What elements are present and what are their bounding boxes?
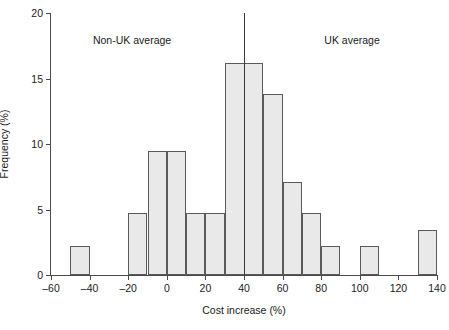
y-tick-label: 5 [37,204,43,215]
x-tick-label: 60 [277,283,289,294]
y-axis-title: Frequency (%) [0,110,9,179]
histogram-bar [186,213,205,275]
x-tick-label: 40 [238,283,250,294]
y-tick-label: 15 [31,73,43,84]
x-tick-label: –40 [81,283,99,294]
histogram-bar [360,246,379,275]
x-tick-label: 100 [351,283,369,294]
histogram-bar [283,182,302,275]
uk-average-divider [244,13,245,275]
histogram-bar [205,213,224,275]
x-tick-label: 120 [390,283,408,294]
uk-average-label: UK average [324,35,379,46]
x-tick-mark [90,275,91,280]
y-tick-mark [46,144,51,145]
histogram-bar [263,94,282,275]
histogram-bar [321,246,340,275]
y-tick-label: 0 [37,270,43,281]
non-uk-average-label: Non-UK average [93,35,171,46]
x-tick-mark [205,275,206,280]
x-tick-label: 80 [315,283,327,294]
y-tick-mark [46,79,51,80]
histogram-bar [70,246,89,275]
histogram-bar [418,230,437,275]
x-tick-mark [283,275,284,280]
x-tick-mark [51,275,52,280]
histogram-bar [167,151,186,275]
x-axis-title: Cost increase (%) [51,305,437,316]
histogram-bar [148,151,167,275]
x-tick-label: –60 [42,283,60,294]
x-tick-mark [398,275,399,280]
y-tick-label: 20 [31,8,43,19]
histogram-bar [128,213,147,275]
histogram-bar [302,213,321,275]
x-tick-label: 140 [428,283,446,294]
x-tick-label: –20 [119,283,137,294]
histogram-figure: 05101520 –60–40–20020406080100120140 Non… [0,0,449,330]
x-tick-label: 20 [200,283,212,294]
x-tick-mark [128,275,129,280]
x-tick-mark [167,275,168,280]
plot-area: 05101520 –60–40–20020406080100120140 Non… [51,13,437,275]
x-tick-mark [321,275,322,280]
y-tick-mark [46,13,51,14]
x-tick-mark [437,275,438,280]
y-tick-mark [46,210,51,211]
x-tick-label: 0 [164,283,170,294]
x-tick-mark [244,275,245,280]
x-tick-mark [360,275,361,280]
y-tick-label: 10 [31,139,43,150]
